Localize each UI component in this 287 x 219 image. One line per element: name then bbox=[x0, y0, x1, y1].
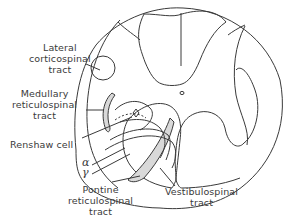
label-pontine-reticulospinal: Pontine reticulospinal tract bbox=[68, 184, 133, 217]
label-line: Vestibulospinal bbox=[165, 186, 238, 197]
label-line: corticospinal bbox=[29, 53, 91, 64]
label-lateral-corticospinal: Lateral corticospinal tract bbox=[29, 42, 91, 75]
label-line: tract bbox=[29, 64, 91, 75]
leader-vestibulospinal bbox=[160, 168, 175, 186]
vestibulospinal-tract bbox=[128, 118, 174, 182]
label-line: reticulospinal bbox=[12, 99, 77, 110]
label-line: Renshaw cell bbox=[10, 139, 73, 150]
right-funiculus-boundary bbox=[234, 26, 247, 145]
label-line: reticulospinal bbox=[68, 195, 133, 206]
medullary-reticulospinal-tract bbox=[103, 93, 115, 132]
label-vestibulospinal: Vestibulospinal tract bbox=[165, 186, 238, 208]
label-line: γ bbox=[82, 167, 89, 178]
label-medullary-reticulospinal: Medullary reticulospinal tract bbox=[12, 88, 77, 121]
label-gamma: γ bbox=[82, 167, 89, 178]
label-renshaw-cell: Renshaw cell bbox=[10, 139, 73, 150]
label-line: Medullary bbox=[12, 88, 77, 99]
label-line: tract bbox=[68, 206, 133, 217]
label-line: Lateral bbox=[29, 42, 91, 53]
label-line: tract bbox=[165, 197, 238, 208]
left-funiculus-boundary bbox=[87, 20, 120, 188]
grey-matter-outline bbox=[139, 11, 226, 85]
label-line: Pontine bbox=[68, 184, 133, 195]
central-canal bbox=[180, 91, 184, 94]
dorsal-boundary-left bbox=[118, 22, 140, 40]
label-line: tract bbox=[12, 110, 77, 121]
leader-alpha bbox=[92, 148, 125, 165]
dorsal-boundary-right bbox=[228, 25, 245, 35]
